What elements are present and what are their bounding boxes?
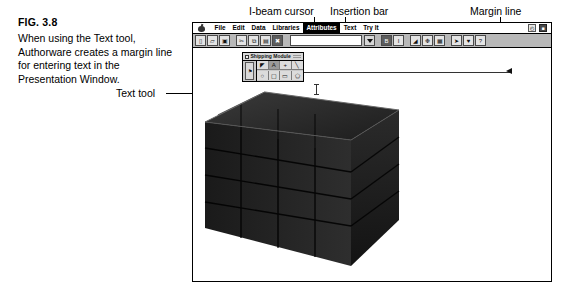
pause-icon[interactable]: ♥ [463,35,474,46]
callout-margin-line: Margin line [470,5,521,17]
flag-tool-icon[interactable]: ⚑ [245,62,254,80]
pointer-tool[interactable]: ◤ [257,61,269,70]
bold-icon[interactable]: B [381,35,392,46]
text-tool[interactable]: A [269,61,281,70]
menu-item-file[interactable]: File [211,23,229,33]
figure-page: FIG. 3.8 When using the Text tool, Autho… [0,0,570,303]
menu-item-libraries[interactable]: Libraries [269,23,303,33]
title-stripes [293,55,301,59]
copy-icon[interactable]: ⧉ [248,35,259,46]
i-beam-cursor [314,84,319,95]
run-icon[interactable]: ➤ [451,35,462,46]
font-name-field[interactable] [290,35,362,46]
authorware-window: File Edit Data Libraries Attributes Text… [192,22,552,282]
tool-palette[interactable]: Shipping Module ⚑ ◤ A + ╲ ○ ▢ ▭ [242,52,304,82]
apple-icon[interactable] [197,24,206,33]
paste-icon[interactable]: ▤ [260,35,271,46]
line-tool[interactable]: ╲ [292,61,304,70]
save-disk-icon[interactable]: ▣ [219,35,230,46]
palette-body: ⚑ ◤ A + ╲ ○ ▢ ▭ ⬠ [243,61,303,81]
menu-item-attributes[interactable]: Attributes [303,23,340,33]
menu-bar-status-icons: ◴ ■ [528,24,551,32]
screen-icon[interactable]: ■ [539,24,547,32]
menu-item-edit[interactable]: Edit [229,23,248,33]
figure-number: FIG. 3.8 [18,16,178,28]
figure-caption-text: When using the Text tool, Authorware cre… [18,32,178,86]
palette-title-label: Shipping Module [249,53,291,60]
margin-line[interactable] [298,72,512,73]
display-icon[interactable]: ◢ [410,35,421,46]
right-margin-marker[interactable] [506,68,512,74]
callout-ibeam-cursor: I-beam cursor [249,5,314,17]
new-document-icon[interactable]: ▯ [195,35,206,46]
video-icon[interactable]: ▦ [434,35,445,46]
motion-icon[interactable]: ❉ [422,35,433,46]
menu-bar: File Edit Data Libraries Attributes Text… [193,23,551,34]
help-icon[interactable]: ? [475,35,486,46]
ellipse-tool[interactable]: ○ [257,71,269,80]
crosshair-tool[interactable]: + [280,61,292,70]
callout-text-tool: Text tool [116,87,155,99]
open-folder-icon[interactable]: ▱ [207,35,218,46]
italic-icon[interactable]: I [393,35,404,46]
chevron-down-icon[interactable] [364,35,375,46]
cut-scissors-icon[interactable]: ✂ [236,35,247,46]
stack-of-crates-photo [201,78,406,274]
clear-icon[interactable]: ✖ [272,35,283,46]
toolbar: ▯ ▱ ▣ ✂ ⧉ ▤ ✖ B I ◢ ❉ ▦ ➤ ♥ ? [193,34,551,48]
rounded-rect-tool[interactable]: ▢ [269,71,281,80]
palette-title-bar[interactable]: Shipping Module [243,53,303,61]
clock-icon[interactable]: ◴ [528,24,536,32]
presentation-window[interactable]: Shipping Module ⚑ ◤ A + ╲ ○ ▢ ▭ [193,48,551,279]
palette-tool-grid: ◤ A + ╲ ○ ▢ ▭ ⬠ [257,61,303,81]
polygon-tool[interactable]: ⬠ [292,71,304,80]
menu-item-text[interactable]: Text [340,23,360,33]
figure-caption-block: FIG. 3.8 When using the Text tool, Autho… [18,16,178,86]
menu-item-data[interactable]: Data [248,23,269,33]
palette-side-column: ⚑ [243,61,257,81]
rectangle-tool[interactable]: ▭ [280,71,292,80]
menu-item-tryit[interactable]: Try It [360,23,382,33]
callout-insertion-bar: Insertion bar [330,5,388,17]
